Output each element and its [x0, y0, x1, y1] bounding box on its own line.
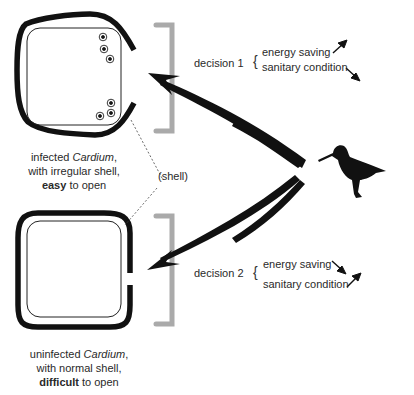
shell-leader-bottom	[125, 188, 157, 225]
decision2-label: decision 2	[194, 267, 244, 280]
uninfected-shell	[18, 213, 130, 327]
shell-label: (shell)	[158, 170, 188, 183]
infected-caption: infected Cardium, with irregular shell, …	[14, 150, 134, 192]
decision2-factor-energy: energy saving	[263, 258, 332, 271]
bracket-decision-2	[156, 216, 172, 324]
decision1-factor-sanitary: sanitary condition	[262, 61, 348, 74]
lower-mandible-curve	[232, 180, 305, 243]
decision2-brace: {	[253, 264, 258, 280]
decision1-factor-energy: energy saving	[262, 46, 331, 59]
bird-icon	[318, 145, 386, 198]
infected-shell	[17, 14, 134, 135]
decision2-factor-sanitary: sanitary condition	[263, 278, 349, 291]
parasite-dots	[96, 33, 115, 120]
decision1-brace: {	[253, 53, 258, 69]
decision1-label: decision 1	[194, 57, 244, 70]
uninfected-caption: uninfected Cardium, with normal shell, d…	[14, 347, 144, 389]
